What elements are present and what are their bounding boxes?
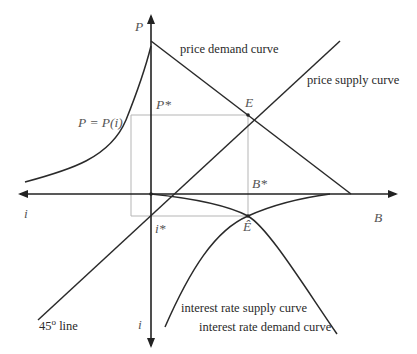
line-45-label: 45o line (39, 318, 78, 333)
origin (149, 192, 153, 196)
price-supply-label: price supply curve (307, 74, 399, 87)
price-demand-curve (151, 41, 351, 194)
interest-supply-label: interest rate supply curve (181, 302, 307, 315)
diagram-canvas: P B i i P* B* i* E Ê price demand curve … (0, 0, 417, 354)
point-e-hat (246, 214, 250, 218)
p-of-i-curve (25, 46, 151, 182)
b-star-label: B* (252, 177, 267, 191)
p-star-label: P* (156, 98, 171, 112)
e-label: E (245, 96, 253, 110)
p-axis-label: P (135, 20, 143, 34)
e-hat-label: Ê (243, 220, 251, 234)
guide-lines (131, 115, 248, 216)
interest-demand-label: interest rate demand curve (199, 321, 331, 334)
price-function-label: P = P(i) (78, 116, 123, 130)
i-down-axis-label: i (138, 318, 142, 332)
b-axis-label: B (374, 211, 382, 225)
price-demand-label: price demand curve (180, 43, 279, 56)
i-star-label: i* (155, 222, 166, 236)
line-45-text: line (56, 319, 78, 333)
i-left-axis-label: i (24, 207, 28, 221)
line-45-degrees: 45 (39, 319, 52, 333)
point-e (246, 113, 250, 117)
